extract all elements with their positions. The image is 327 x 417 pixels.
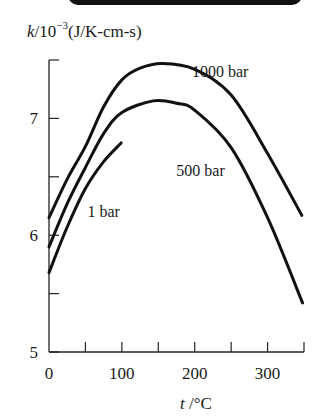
x-tick-label: 100 [109,364,135,383]
series-label-1000-bar: 1000 bar [192,63,249,80]
x-tick-label: 300 [255,364,281,383]
x-axis-unit: /°C [185,394,212,413]
y-tick-label: 5 [30,343,39,362]
series-label-1-bar: 1 bar [87,203,120,220]
y-tick-label: 6 [30,226,39,245]
curve-1000-bar [49,63,302,217]
series-label-500-bar: 500 bar [176,162,225,179]
curve-500-bar [49,100,303,303]
y-tick-label: 7 [30,109,39,128]
x-tick-label: 200 [182,364,208,383]
line-chart: 56701002003001000 bar500 bar1 bar [0,0,327,417]
x-axis-label: t /°C [180,394,212,414]
x-tick-label: 0 [45,364,54,383]
